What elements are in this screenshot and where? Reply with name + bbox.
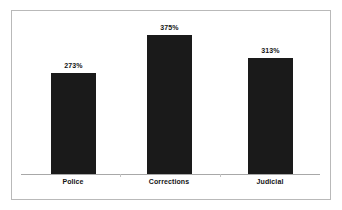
category-label-judicial: Judicial [240, 178, 300, 185]
bar-value-label-corrections: 375% [147, 24, 192, 31]
axis-tick-1 [120, 174, 121, 177]
category-label-corrections: Corrections [139, 178, 199, 185]
bar-corrections [147, 35, 192, 174]
category-axis-line [21, 174, 320, 175]
category-label-police: Police [43, 178, 103, 185]
bar-police [51, 73, 96, 174]
plot-area: 273% Police 375% Corrections 313% Judici… [0, 0, 342, 210]
bar-chart-figure: 273% Police 375% Corrections 313% Judici… [0, 0, 342, 210]
axis-tick-2 [220, 174, 221, 177]
bar-judicial [248, 58, 293, 174]
bar-value-label-judicial: 313% [248, 47, 293, 54]
bar-value-label-police: 273% [51, 62, 96, 69]
